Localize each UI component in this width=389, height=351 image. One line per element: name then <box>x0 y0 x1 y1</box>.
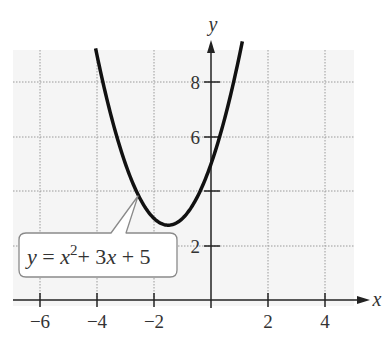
y-axis-label: y <box>207 13 218 36</box>
x-axis-label: x <box>372 288 382 310</box>
x-tick-label: −6 <box>30 311 50 332</box>
x-tick-label: −4 <box>87 311 108 332</box>
y-tick-label: 6 <box>191 127 201 148</box>
x-tick-label: 4 <box>320 311 330 332</box>
parabola-chart: −6 −4 −2 2 4 x 8 6 2 y y = x2+ 3x + 5 <box>0 0 389 351</box>
y-tick-label: 2 <box>191 236 201 257</box>
y-axis-arrow-icon <box>207 40 215 53</box>
callout-equation: y = x2+ 3x + 5 <box>25 242 151 269</box>
x-tick-label: 2 <box>263 311 273 332</box>
y-tick-label: 8 <box>191 72 201 93</box>
x-tick-label: −2 <box>144 311 164 332</box>
x-axis-arrow-icon <box>357 296 370 304</box>
